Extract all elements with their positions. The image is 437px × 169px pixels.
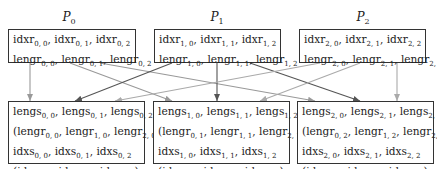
box-line: idxr2, 0, idxr2, 1, idxr2, 2 bbox=[304, 32, 421, 52]
process-label-p0: P0 bbox=[54, 10, 84, 26]
send-box-p0: idxr0, 0, idxr0, 1, idxr0, 2lengr0, 0, l… bbox=[8, 29, 136, 63]
process-label-p1: P1 bbox=[202, 10, 232, 26]
recv-box-p2: lengs2, 0, lengs2, 1, lengs2, 2(lengr0, … bbox=[297, 101, 434, 164]
box-line: idxs0, 0, idxs0, 1, idxs0, 2 bbox=[13, 144, 140, 164]
recv-box-p1: lengs1, 0, lengs1, 1, lengs1, 2(lengr0, … bbox=[153, 101, 290, 164]
send-box-p2: idxr2, 0, idxr2, 1, idxr2, 2lengr2, 0, l… bbox=[299, 29, 426, 63]
box-line: (idxr0, 1, idxr1, 1, idxr2, 1) bbox=[158, 164, 285, 169]
box-line: lengr2, 0, lengr2, 1, lengr2, 2 bbox=[304, 52, 421, 72]
box-line: (lengr0, 0, lengr1, 0, lengr2, 0) bbox=[13, 124, 140, 144]
box-line: idxs1, 0, idxs1, 1, idxs1, 2 bbox=[158, 144, 285, 164]
box-line: idxs2, 0, idxs2, 1, idxs2, 2 bbox=[302, 144, 429, 164]
box-line: lengs2, 0, lengs2, 1, lengs2, 2 bbox=[302, 104, 429, 124]
box-line: lengs1, 0, lengs1, 1, lengs1, 2 bbox=[158, 104, 285, 124]
recv-box-p0: lengs0, 0, lengs0, 1, lengs0, 2(lengr0, … bbox=[8, 101, 145, 164]
box-line: idxr0, 0, idxr0, 1, idxr0, 2 bbox=[13, 32, 131, 52]
box-line: (idxr0, 2, idxr1, 2, idxr2, 2) bbox=[302, 164, 429, 169]
box-line: lengr0, 0, lengr0, 1, lengr0, 2 bbox=[13, 52, 131, 72]
box-line: idxr1, 0, idxr1, 1, idxr1, 2 bbox=[159, 32, 276, 52]
box-line: (idxr0, 0, idxr1, 0, idxr2, 0) bbox=[13, 164, 140, 169]
box-line: lengr1, 0, lengr1, 1, lengr1, 2 bbox=[159, 52, 276, 72]
box-line: (lengr0, 1, lengr1, 1, lengr2, 1) bbox=[158, 124, 285, 144]
box-line: lengs0, 0, lengs0, 1, lengs0, 2 bbox=[13, 104, 140, 124]
box-line: (lengr0, 2, lengr1, 2, lengr2, 2) bbox=[302, 124, 429, 144]
process-label-p2: P2 bbox=[348, 10, 378, 26]
send-box-p1: idxr1, 0, idxr1, 1, idxr1, 2lengr1, 0, l… bbox=[154, 29, 281, 63]
